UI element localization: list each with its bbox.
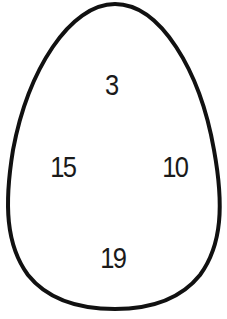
egg-diagram: 3 15 10 19 — [0, 0, 227, 319]
number-right: 10 — [162, 152, 187, 182]
number-left: 15 — [50, 152, 75, 182]
number-bottom: 19 — [100, 243, 125, 273]
number-top: 3 — [105, 70, 117, 100]
